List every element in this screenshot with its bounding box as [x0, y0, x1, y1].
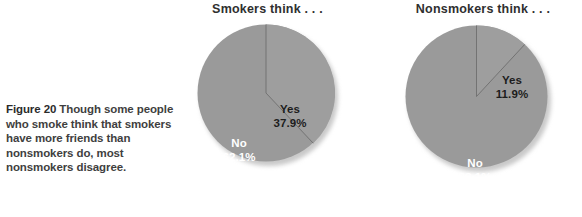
- pie-label-no-smokers: No 62.1%: [209, 137, 269, 164]
- pie-label-yes-nonsmokers-name: Yes: [482, 74, 542, 88]
- figure-caption: Figure 20 Though some people who smoke t…: [6, 102, 178, 175]
- pie-label-no-nonsmokers-value: 88.1%: [445, 171, 505, 185]
- pie-label-no-nonsmokers: No 88.1%: [445, 157, 505, 184]
- chart-title-smokers: Smokers think . . .: [190, 2, 345, 16]
- pie-label-yes-smokers-name: Yes: [260, 103, 320, 117]
- pie-label-no-smokers-value: 62.1%: [209, 151, 269, 165]
- pie-label-yes-nonsmokers-value: 11.9%: [482, 88, 542, 102]
- figure-number: Figure 20: [6, 103, 56, 115]
- chart-title-nonsmokers: Nonsmokers think . . .: [398, 2, 568, 16]
- pie-label-yes-smokers: Yes 37.9%: [260, 103, 320, 130]
- pie-label-yes-nonsmokers: Yes 11.9%: [482, 74, 542, 101]
- pie-label-no-nonsmokers-name: No: [445, 157, 505, 171]
- pie-graphic-smokers: Yes 37.9% No 62.1%: [197, 24, 335, 162]
- pie-label-no-smokers-name: No: [209, 137, 269, 151]
- pie-label-yes-smokers-value: 37.9%: [260, 117, 320, 131]
- pie-graphic-nonsmokers: Yes 11.9% No 88.1%: [405, 25, 548, 168]
